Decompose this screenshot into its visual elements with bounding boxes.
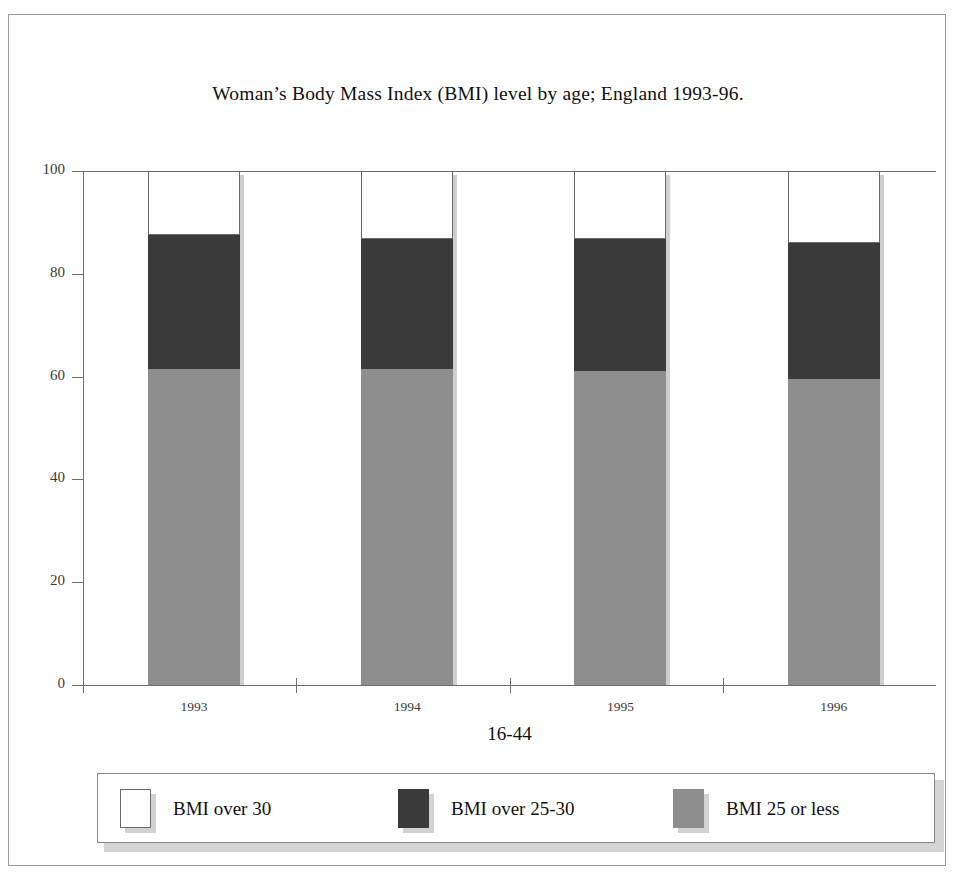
legend-swatch-dark bbox=[398, 789, 429, 828]
x-axis-tick bbox=[510, 678, 511, 693]
y-axis-tick: 0 bbox=[72, 685, 83, 686]
y-axis-tick-label: 40 bbox=[50, 469, 65, 486]
y-axis-tick: 80 bbox=[72, 274, 83, 275]
x-axis-title: 16-44 bbox=[83, 723, 936, 745]
bar-segments bbox=[148, 171, 240, 685]
bar-segment[interactable] bbox=[361, 239, 453, 369]
bar-segment[interactable] bbox=[574, 239, 666, 372]
plot-area: 020406080100 1993199419951996 bbox=[83, 171, 936, 685]
legend-item[interactable]: BMI over 30 bbox=[120, 788, 271, 830]
y-axis-tick: 40 bbox=[72, 479, 83, 480]
bar-segments bbox=[361, 171, 453, 685]
bar-segment[interactable] bbox=[788, 171, 880, 243]
bar-segments bbox=[788, 171, 880, 685]
x-axis-tick-label: 1994 bbox=[394, 699, 421, 715]
legend-swatch-wrap bbox=[120, 789, 152, 829]
y-axis-tick-label: 0 bbox=[58, 675, 66, 692]
legend-swatch-gray bbox=[673, 789, 704, 828]
y-axis-tick-label: 60 bbox=[50, 367, 65, 384]
chart-title: Woman’s Body Mass Index (BMI) level by a… bbox=[9, 83, 947, 105]
bar-segment[interactable] bbox=[361, 171, 453, 239]
x-axis-line bbox=[73, 685, 936, 686]
figure-frame: Woman’s Body Mass Index (BMI) level by a… bbox=[8, 14, 946, 866]
bar-segments bbox=[574, 171, 666, 685]
bar-stack-1994[interactable] bbox=[361, 171, 453, 685]
legend-item[interactable]: BMI 25 or less bbox=[673, 788, 839, 830]
bar-stack-1993[interactable] bbox=[148, 171, 240, 685]
y-axis-tick: 100 bbox=[72, 171, 83, 172]
x-axis-tick bbox=[296, 678, 297, 693]
x-axis-tick-label: 1996 bbox=[820, 699, 847, 715]
x-axis-tick bbox=[83, 678, 84, 693]
chart-legend: BMI over 30BMI over 25-30BMI 25 or less bbox=[97, 773, 935, 843]
bar-stack-1996[interactable] bbox=[788, 171, 880, 685]
bar-segment[interactable] bbox=[361, 369, 453, 685]
bar-segment[interactable] bbox=[148, 369, 240, 685]
legend-swatch-wrap bbox=[398, 789, 430, 829]
bar-segment[interactable] bbox=[788, 379, 880, 685]
legend-label: BMI over 25-30 bbox=[451, 798, 574, 820]
bar-segment[interactable] bbox=[148, 235, 240, 369]
legend-swatch-wrap bbox=[673, 789, 705, 829]
legend-swatch-white bbox=[120, 789, 151, 828]
bar-segment[interactable] bbox=[574, 171, 666, 239]
bar-segment[interactable] bbox=[148, 171, 240, 235]
bar-stack-1995[interactable] bbox=[574, 171, 666, 685]
y-axis-line bbox=[83, 171, 84, 685]
x-axis-tick-label: 1995 bbox=[607, 699, 634, 715]
y-axis-tick: 60 bbox=[72, 377, 83, 378]
bar-segment[interactable] bbox=[788, 243, 880, 379]
y-axis-tick-label: 100 bbox=[43, 161, 66, 178]
y-axis-tick: 20 bbox=[72, 582, 83, 583]
y-axis-tick-label: 20 bbox=[50, 572, 65, 589]
legend-label: BMI over 30 bbox=[173, 798, 271, 820]
x-axis-tick-label: 1993 bbox=[180, 699, 207, 715]
legend-item[interactable]: BMI over 25-30 bbox=[398, 788, 574, 830]
bar-segment[interactable] bbox=[574, 371, 666, 685]
x-axis-tick bbox=[723, 678, 724, 693]
legend-label: BMI 25 or less bbox=[726, 798, 839, 820]
y-axis-tick-label: 80 bbox=[50, 264, 65, 281]
